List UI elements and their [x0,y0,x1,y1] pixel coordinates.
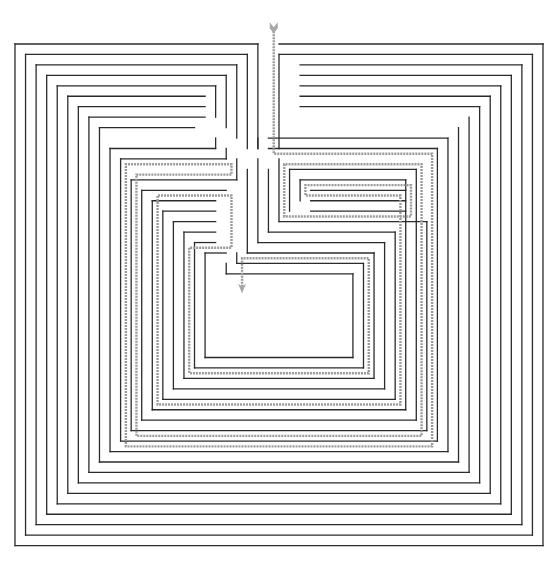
maze-walls [15,44,543,546]
start-arrow-icon [270,22,278,33]
maze-diagram [0,0,560,578]
